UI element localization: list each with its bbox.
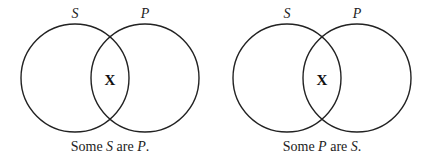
label-p: P (140, 6, 150, 21)
venn-diagram-some-p-are-s: S P X Some P are S. (233, 6, 411, 154)
venn-diagram-some-s-are-p: S P X Some S are P. (21, 6, 199, 154)
existence-mark: X (317, 72, 328, 88)
venn-diagrams: S P X Some S are P. S P X Some P are S. (0, 0, 433, 161)
caption: Some S are P. (71, 139, 150, 154)
label-s: S (284, 6, 291, 21)
existence-mark: X (105, 72, 116, 88)
caption: Some P are S. (283, 139, 362, 154)
label-s: S (72, 6, 79, 21)
label-p: P (352, 6, 362, 21)
